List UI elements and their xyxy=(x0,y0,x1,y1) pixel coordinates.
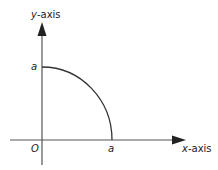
quarter-circle-diagram: y-axis a O a x-axis xyxy=(0,0,218,170)
x-axis-label: x-axis xyxy=(181,143,212,154)
y-axis-arrow-icon xyxy=(38,22,47,36)
y-intercept-label: a xyxy=(31,61,37,72)
y-axis-label: y-axis xyxy=(30,9,61,20)
origin-label: O xyxy=(31,143,39,154)
x-intercept-label: a xyxy=(108,143,114,154)
quarter-circle-arc xyxy=(42,67,112,140)
